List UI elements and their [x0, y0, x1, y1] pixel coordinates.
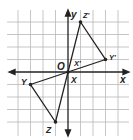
vertex-label-y-prime: Y'	[109, 53, 116, 62]
vertex-label-y: Y	[21, 77, 28, 87]
coordinate-grid-diagram: y x O X Y Z X' Y' Z'	[0, 0, 133, 140]
point-z-prime	[79, 20, 83, 24]
vertex-label-x: X	[70, 75, 78, 85]
y-axis-arrow-down-icon	[66, 130, 71, 136]
point-y	[29, 83, 33, 87]
y-axis-label: y	[70, 9, 77, 20]
x-axis-arrow-left-icon	[9, 70, 15, 75]
point-y-prime	[104, 58, 108, 62]
vertex-label-z: Z	[45, 125, 52, 135]
vertex-label-x-prime: X'	[73, 59, 81, 68]
vertex-label-z-prime: Z'	[82, 11, 90, 20]
point-z	[54, 120, 58, 124]
point-x	[66, 70, 70, 74]
y-axis-arrow-up-icon	[66, 10, 71, 16]
origin-label: O	[57, 61, 65, 72]
x-axis-label: x	[119, 74, 126, 85]
